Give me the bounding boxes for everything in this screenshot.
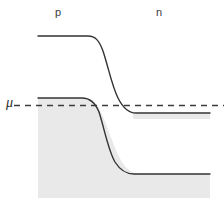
chemical-potential-label: μ [6, 96, 13, 110]
p-region-label: p [55, 7, 61, 18]
filled-conduction-states-region [133, 114, 210, 120]
pn-junction-band-diagram [0, 0, 224, 214]
n-region-label: n [156, 7, 162, 18]
